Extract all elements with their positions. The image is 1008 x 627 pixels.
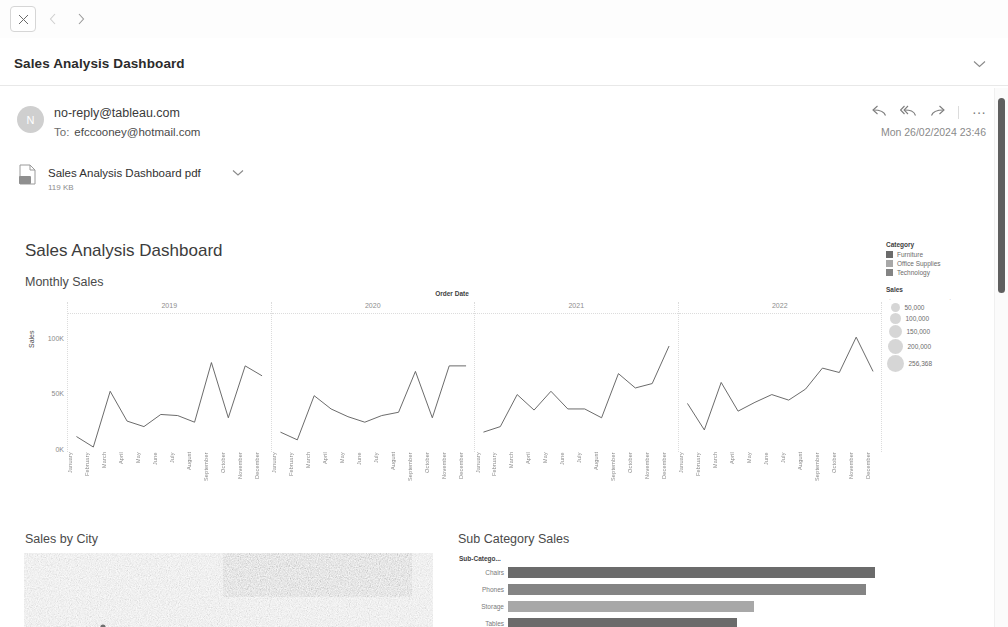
sales-by-city-map (24, 553, 434, 627)
bar-row[interactable]: Tables (458, 617, 888, 627)
panel-plot-area (475, 313, 678, 452)
legend-size-label: 50,000 (905, 304, 925, 311)
legend-size-label: 256,368 (909, 360, 933, 367)
sub-category-sales-chart: Sub-Catego... ChairsPhonesStorageTables (458, 555, 888, 627)
month-label: October (424, 452, 441, 498)
sender-address[interactable]: no-reply@tableau.com (54, 106, 180, 120)
chevron-down-icon (232, 169, 244, 177)
legend-sales-block: Sales · · 50,000100,000150,000200,000256… (886, 286, 986, 372)
us-map-icon (24, 553, 434, 627)
line-series (68, 314, 271, 452)
sheet-title-sub-category-sales: Sub Category Sales (458, 532, 569, 546)
to-label: To: (54, 126, 69, 138)
size-circle-icon (891, 303, 900, 312)
month-label: July (576, 452, 593, 498)
previous-item-button[interactable] (42, 6, 64, 32)
size-circle-icon (889, 325, 902, 338)
next-item-button[interactable] (70, 6, 92, 32)
chart-panel: 2021 (474, 302, 678, 452)
bar-fill (508, 618, 737, 627)
divider (958, 106, 959, 119)
month-label: March (712, 452, 729, 498)
month-label: June (356, 452, 373, 498)
month-label-group: JanuaryFebruaryMarchAprilMayJuneJulyAugu… (678, 452, 882, 498)
bar-track (508, 584, 888, 595)
sheet-title-monthly-sales: Monthly Sales (25, 275, 104, 289)
reply-icon (872, 105, 887, 117)
subject-row: Sales Analysis Dashboard (0, 42, 1008, 86)
vertical-scrollbar-thumb[interactable] (998, 98, 1005, 293)
dashboard-title: Sales Analysis Dashboard (25, 241, 223, 261)
month-label: July (373, 452, 390, 498)
bar-fill (508, 584, 866, 595)
bar-row[interactable]: Chairs (458, 566, 888, 579)
recipient-address[interactable]: efccooney@hotmail.com (74, 126, 200, 138)
month-label: February (695, 452, 712, 498)
month-label: September (203, 452, 220, 498)
attachment-name: Sales Analysis Dashboard pdf (48, 167, 201, 179)
close-button[interactable] (10, 6, 36, 32)
legend-size-item: 200,000 (886, 339, 986, 354)
bar-fill (508, 601, 754, 612)
month-label: September (610, 452, 627, 498)
bar-category-label: Tables (458, 620, 508, 627)
size-axis-min: · (889, 296, 891, 302)
month-label: December (865, 452, 882, 498)
y-axis-tick-label: 0K (55, 446, 64, 453)
month-label: August (797, 452, 814, 498)
legend-size-item: 150,000 (886, 325, 986, 338)
line-series (272, 314, 475, 452)
more-actions-button[interactable]: ··· (972, 104, 986, 120)
attachment-menu-button[interactable] (232, 167, 244, 179)
avatar: N (17, 106, 44, 133)
bar-category-label: Storage (458, 603, 508, 610)
month-label: June (152, 452, 169, 498)
bar-row[interactable]: Storage (458, 600, 888, 613)
message-timestamp: Mon 26/02/2024 23:46 (881, 126, 986, 138)
month-label: March (305, 452, 322, 498)
size-axis-max: · (949, 296, 951, 302)
legend-item[interactable]: Technology (886, 269, 986, 276)
recipient-line: To:efccooney@hotmail.com (54, 126, 200, 138)
reply-button[interactable] (872, 104, 887, 120)
month-label: February (84, 452, 101, 498)
panel-year-label: 2021 (475, 302, 678, 309)
expand-subject-button[interactable] (973, 57, 986, 71)
month-label: November (848, 452, 865, 498)
sheet-title-sales-by-city: Sales by City (25, 532, 98, 546)
chevron-right-icon (77, 13, 85, 25)
bar-row[interactable]: Phones (458, 583, 888, 596)
reply-all-icon (900, 105, 917, 117)
legend-swatch-icon (886, 251, 893, 258)
month-label: July (780, 452, 797, 498)
month-label: February (491, 452, 508, 498)
chevron-left-icon (49, 13, 57, 25)
attachment-item[interactable]: Sales Analysis Dashboard pdf 119 KB (17, 163, 244, 192)
legend-size-label: 100,000 (906, 315, 930, 322)
x-axis-tick-labels: JanuaryFebruaryMarchAprilMayJuneJulyAugu… (67, 452, 882, 498)
month-label: April (118, 452, 135, 498)
y-axis-title: Sales (28, 330, 35, 348)
legend-size-items: 50,000100,000150,000200,000256,368 (886, 303, 986, 372)
month-label: January (475, 452, 492, 498)
dashboard-preview: Sales Analysis Dashboard Monthly Sales C… (0, 205, 993, 627)
legend-item[interactable]: Office Supplies (886, 260, 986, 267)
bar-category-label: Chairs (458, 569, 508, 576)
panel-year-label: 2022 (679, 302, 882, 309)
month-label: April (525, 452, 542, 498)
reply-all-button[interactable] (900, 104, 917, 120)
legend-size-label: 200,000 (908, 343, 932, 350)
forward-button[interactable] (930, 104, 945, 120)
month-label: January (271, 452, 288, 498)
month-label: June (763, 452, 780, 498)
panel-year-label: 2019 (68, 302, 271, 309)
y-axis-ticks: 0K50K100K (38, 312, 64, 452)
month-label: January (67, 452, 84, 498)
dashboard-legend: Category FurnitureOffice SuppliesTechnol… (886, 241, 986, 372)
bar-track (508, 618, 888, 627)
bar-track (508, 567, 888, 578)
bar-category-label: Phones (458, 586, 508, 593)
panel-plot-area (679, 313, 882, 452)
legend-item[interactable]: Furniture (886, 251, 986, 258)
month-label-group: JanuaryFebruaryMarchAprilMayJuneJulyAugu… (67, 452, 271, 498)
